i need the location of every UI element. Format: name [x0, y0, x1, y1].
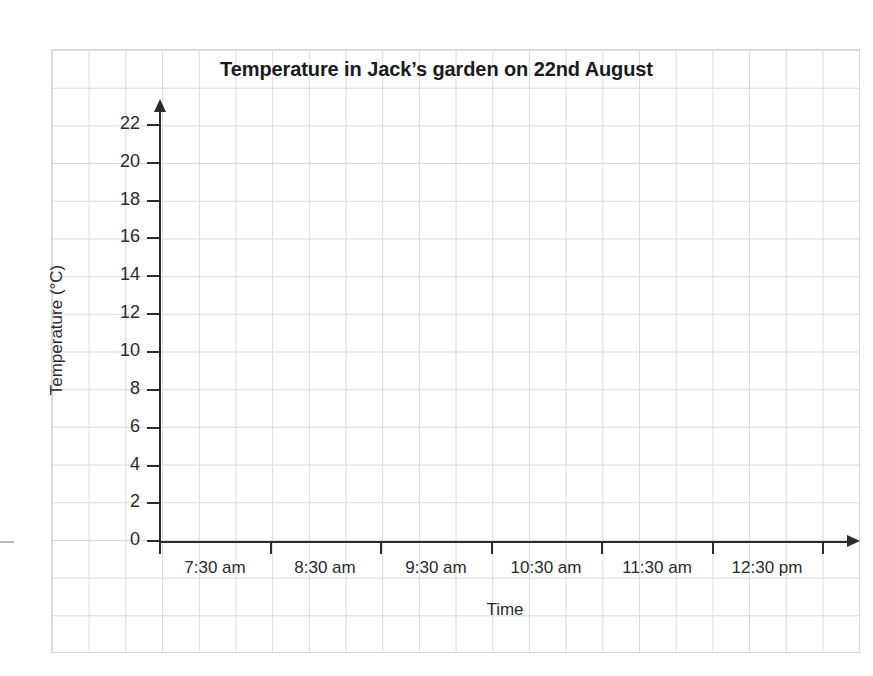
- y-tick: [147, 427, 160, 429]
- x-tick: [159, 542, 161, 554]
- x-tick: [822, 542, 824, 554]
- y-tick: [147, 502, 160, 504]
- x-tick-label: 11:30 am: [602, 558, 712, 578]
- y-tick-label: 16: [96, 226, 140, 247]
- y-tick-label: 18: [96, 189, 140, 210]
- y-tick: [147, 237, 160, 239]
- y-tick: [147, 465, 160, 467]
- y-tick-label: 4: [96, 454, 140, 475]
- x-tick-label: 8:30 am: [270, 558, 380, 578]
- y-tick-label: 14: [96, 264, 140, 285]
- x-tick-label: 12:30 pm: [712, 558, 822, 578]
- x-tick-label: 9:30 am: [381, 558, 491, 578]
- y-tick: [147, 313, 160, 315]
- y-tick-label: 20: [96, 151, 140, 172]
- y-axis-arrow-icon: [154, 99, 166, 112]
- x-axis-title: Time: [160, 600, 850, 620]
- y-axis-line: [159, 110, 161, 543]
- temperature-line-chart: Temperature in Jack’s garden on 22nd Aug…: [0, 0, 873, 676]
- x-tick: [380, 542, 382, 554]
- y-tick: [147, 124, 160, 126]
- x-tick: [712, 542, 714, 554]
- x-tick-label: 7:30 am: [160, 558, 270, 578]
- x-tick: [270, 542, 272, 554]
- x-axis-arrow-icon: [847, 535, 860, 547]
- x-tick-label: 10:30 am: [491, 558, 601, 578]
- y-axis-title: Temperature (°C): [47, 240, 67, 420]
- y-tick-label: 12: [96, 302, 140, 323]
- chart-title: Temperature in Jack’s garden on 22nd Aug…: [0, 58, 873, 81]
- y-tick-label: 6: [96, 416, 140, 437]
- y-tick-label: 0: [96, 529, 140, 550]
- y-tick-label: 2: [96, 491, 140, 512]
- y-tick: [147, 351, 160, 353]
- x-tick: [491, 542, 493, 554]
- y-tick: [147, 200, 160, 202]
- x-tick: [601, 542, 603, 554]
- y-tick: [147, 389, 160, 391]
- y-tick: [147, 275, 160, 277]
- y-tick-label: 8: [96, 378, 140, 399]
- y-tick-label: 10: [96, 340, 140, 361]
- x-axis-line: [160, 541, 850, 543]
- y-tick-label: 22: [96, 113, 140, 134]
- y-tick: [147, 162, 160, 164]
